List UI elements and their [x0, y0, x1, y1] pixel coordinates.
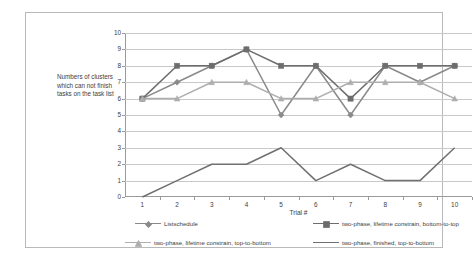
x-tick-label: 3: [210, 202, 214, 208]
x-tick-mark: [160, 197, 161, 200]
plot-area: 012345678910 12345678910: [125, 33, 472, 197]
x-tick-label: 7: [349, 202, 353, 208]
data-point-marker: [174, 63, 179, 68]
data-point-marker: [417, 63, 422, 68]
legend-swatch-diamond-icon: [135, 219, 161, 228]
y-tick-mark: [122, 197, 125, 198]
legend-item-two-phase-lifetime-top-to-bottom[interactable]: two-phase, lifetime constrain, top-to-bo…: [125, 238, 271, 247]
data-point-marker: [244, 47, 249, 52]
x-tick-mark: [333, 197, 334, 200]
legend-item-two-phase-finished-top-to-bottom[interactable]: two-phase, finished, top-to-bottom: [313, 238, 434, 247]
legend-swatch-square-icon: [313, 219, 339, 228]
y-tick-label: 2: [117, 161, 121, 167]
series-layer: [125, 33, 472, 197]
y-tick-label: 0: [117, 194, 121, 200]
x-tick-mark: [403, 197, 404, 200]
x-tick-label: 10: [451, 202, 458, 208]
y-tick-label: 6: [117, 95, 121, 101]
legend-swatch-line-icon: [313, 238, 339, 247]
plot-inner: 012345678910 12345678910: [125, 33, 472, 197]
data-point-marker: [174, 79, 180, 85]
legend-label: two-phase, finished, top-to-bottom: [342, 239, 434, 246]
chart-legend: Listschedule two-phase, lifetime constra…: [125, 219, 470, 255]
legend-label: two-phase, lifetime constrain, bottom-to…: [342, 220, 459, 227]
x-tick-label: 9: [418, 202, 422, 208]
y-tick-label: 3: [117, 145, 121, 151]
y-tick-label: 10: [114, 30, 121, 36]
x-axis-title: Trial #: [125, 209, 472, 216]
y-tick-label: 4: [117, 128, 121, 134]
y-tick-label: 1: [117, 177, 121, 183]
x-tick-label: 2: [175, 202, 179, 208]
x-tick-label: 6: [314, 202, 318, 208]
y-tick-label: 5: [117, 112, 121, 118]
x-tick-mark: [299, 197, 300, 200]
data-point-marker: [383, 63, 388, 68]
data-point-marker: [313, 63, 318, 68]
y-axis-title: Numbers of clusters which can not finish…: [57, 73, 119, 99]
y-tick-label: 7: [117, 79, 121, 85]
x-tick-label: 8: [383, 202, 387, 208]
legend-item-listschedule[interactable]: Listschedule: [135, 219, 198, 228]
data-point-marker: [279, 63, 284, 68]
x-tick-label: 1: [141, 202, 145, 208]
x-tick-mark: [264, 197, 265, 200]
legend-swatch-triangle-icon: [125, 238, 151, 247]
y-tick-label: 9: [117, 46, 121, 52]
legend-item-two-phase-lifetime-bottom-to-top[interactable]: two-phase, lifetime constrain, bottom-to…: [313, 219, 459, 228]
data-point-marker: [209, 63, 214, 68]
legend-label: two-phase, lifetime constrain, top-to-bo…: [154, 239, 271, 246]
y-tick-label: 8: [117, 63, 121, 69]
x-tick-mark: [229, 197, 230, 200]
x-tick-mark: [437, 197, 438, 200]
legend-label: Listschedule: [164, 220, 198, 227]
data-point-marker: [348, 96, 353, 101]
data-point-marker: [452, 63, 457, 68]
chart-frame: Numbers of clusters which can not finish…: [25, 12, 443, 248]
x-tick-label: 4: [245, 202, 249, 208]
x-tick-mark: [194, 197, 195, 200]
series-3: [142, 148, 454, 197]
x-tick-mark: [368, 197, 369, 200]
series-line: [142, 148, 454, 197]
x-tick-label: 5: [279, 202, 283, 208]
